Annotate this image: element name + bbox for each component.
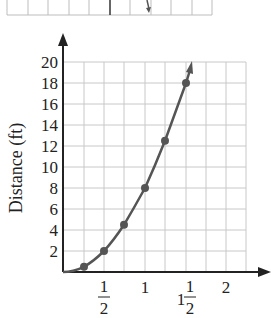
svg-text:10: 10: [41, 158, 58, 177]
svg-text:1: 1: [186, 277, 195, 296]
svg-text:6: 6: [50, 200, 59, 219]
data-point: [80, 263, 88, 271]
svg-text:1: 1: [100, 277, 109, 296]
x-axis-arrow-icon: [258, 267, 271, 277]
y-tick-labels: 20 18 16 14 12 10 8 6 4 2: [41, 53, 59, 261]
svg-text:12: 12: [41, 137, 58, 156]
svg-text:1: 1: [177, 290, 186, 309]
data-point: [161, 137, 169, 145]
svg-text:2: 2: [222, 278, 231, 297]
svg-text:14: 14: [41, 116, 59, 135]
x-tick-labels: 1 2 1 1 1 2 2: [98, 277, 230, 318]
y-axis-arrow-icon: [58, 33, 68, 46]
svg-text:4: 4: [50, 221, 59, 240]
svg-text:2: 2: [100, 299, 109, 318]
curve: [63, 70, 190, 272]
curve-arrow-icon: [186, 61, 193, 74]
svg-text:18: 18: [41, 74, 58, 93]
y-axis-title: Distance (ft): [6, 123, 27, 213]
svg-text:2: 2: [186, 299, 195, 318]
svg-text:2: 2: [50, 242, 59, 261]
data-point: [120, 221, 128, 229]
svg-text:20: 20: [41, 53, 58, 72]
data-point: [100, 247, 108, 255]
svg-text:1: 1: [141, 278, 150, 297]
svg-text:16: 16: [41, 95, 58, 114]
svg-text:8: 8: [50, 179, 59, 198]
previous-figure-fragment: [7, 0, 212, 15]
chart: 20 18 16 14 12 10 8 6 4 2 Distance (ft) …: [0, 0, 271, 318]
data-point: [182, 79, 190, 87]
data-point: [141, 184, 149, 192]
